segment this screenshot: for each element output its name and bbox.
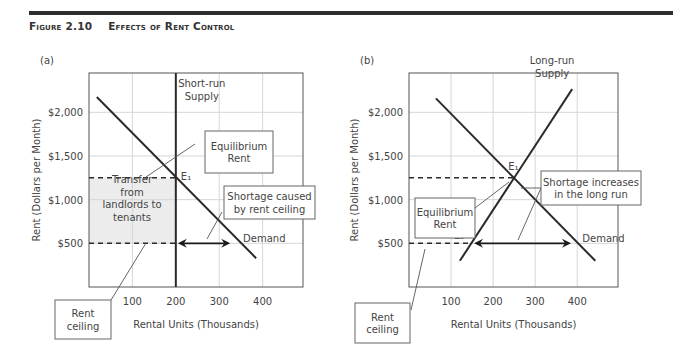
leader-line-shortage [518, 188, 541, 240]
annotation-box-equilibrium-rent [415, 198, 475, 238]
leader-line-rent-ceiling [411, 249, 425, 310]
equilibrium-point-label: E₁ [181, 171, 191, 182]
annotation-box-rent-ceiling [55, 300, 111, 339]
y-tick-label: $1,500 [368, 151, 403, 162]
supply-label: Short-runSupply [178, 78, 225, 102]
y-tick-label: $1,000 [368, 195, 403, 206]
x-tick-label: 200 [484, 296, 503, 307]
x-axis-label: Rental Units (Thousands) [133, 319, 259, 330]
y-tick-label: $1,000 [48, 195, 83, 206]
x-tick-label: 100 [123, 296, 142, 307]
annotation-rent-ceiling: Rentceiling [366, 312, 399, 336]
x-axis-label: Rental Units (Thousands) [451, 319, 577, 330]
rent-control-charts: (a)100200300400$500$1,000$1,500$2,000Ren… [0, 0, 673, 353]
annotation-rent-ceiling: Rentceiling [67, 308, 100, 332]
annotation-box-equilibrium-rent [205, 131, 273, 173]
y-tick-label: $500 [378, 238, 403, 249]
y-tick-label: $2,000 [368, 107, 403, 118]
annotation-box-rent-ceiling [355, 303, 410, 343]
annotation-shortage: Shortage causedby rent ceiling [227, 191, 311, 215]
y-tick-label: $500 [58, 238, 83, 249]
y-tick-label: $1,500 [48, 151, 83, 162]
chart-panel-a: (a)100200300400$500$1,000$1,500$2,000Ren… [31, 55, 315, 339]
y-axis-label: Rent (Dollars per Month) [31, 118, 42, 241]
panel-label: (a) [40, 55, 54, 66]
annotation-shortage: Shortage increasesin the long run [543, 177, 639, 201]
panel-label: (b) [360, 55, 374, 66]
leader-line-rent-ceiling [111, 243, 146, 300]
demand-label: Demand [243, 233, 285, 244]
x-tick-label: 100 [442, 296, 461, 307]
demand-label: Demand [582, 233, 624, 244]
chart-panel-b: (b)100200300400$500$1,000$1,500$2,000Ren… [349, 55, 641, 343]
supply-label: Long-runSupply [530, 55, 575, 79]
x-tick-label: 300 [526, 296, 545, 307]
x-tick-label: 400 [253, 296, 272, 307]
y-tick-label: $2,000 [48, 107, 83, 118]
equilibrium-point-label: E₁ [508, 161, 518, 172]
x-tick-label: 200 [166, 296, 185, 307]
y-axis-label: Rent (Dollars per Month) [349, 118, 360, 241]
x-tick-label: 400 [568, 296, 587, 307]
x-tick-label: 300 [210, 296, 229, 307]
